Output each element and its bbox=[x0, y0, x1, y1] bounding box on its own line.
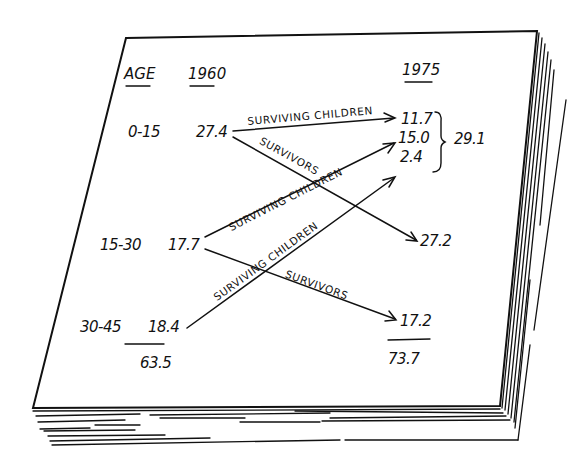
header-year-1960: 1960 bbox=[188, 67, 226, 82]
value-1975-survivors-15-30: 17.2 bbox=[400, 314, 431, 329]
top-page-outline bbox=[33, 31, 537, 408]
value-1975-survivors-0-15: 27.2 bbox=[420, 234, 451, 249]
total-1960: 63.5 bbox=[140, 356, 171, 371]
value-1960-30-45: 18.4 bbox=[148, 320, 179, 335]
value-1960-15-30: 17.7 bbox=[168, 238, 199, 253]
stack-edge-bottom bbox=[33, 409, 518, 445]
age-label-15-30: 15-30 bbox=[100, 238, 141, 253]
value-1975-children-of-15-30: 15.0 bbox=[398, 131, 429, 146]
age-label-0-15: 0-15 bbox=[128, 125, 160, 140]
value-1960-0-15: 27.4 bbox=[196, 125, 227, 140]
age-label-30-45: 30-45 bbox=[80, 320, 121, 335]
total-1975: 73.7 bbox=[388, 352, 419, 367]
value-1975-children-of-30-45: 2.4 bbox=[400, 150, 422, 165]
header-age: AGE bbox=[124, 67, 155, 82]
header-year-1975: 1975 bbox=[402, 63, 440, 78]
diagram-canvas: AGE 1960 1975 0-15 15-30 30-45 27.4 17.7… bbox=[0, 0, 577, 476]
value-1975-children-of-0-15: 11.7 bbox=[401, 112, 432, 127]
bracket-total-1975: 29.1 bbox=[454, 132, 485, 147]
